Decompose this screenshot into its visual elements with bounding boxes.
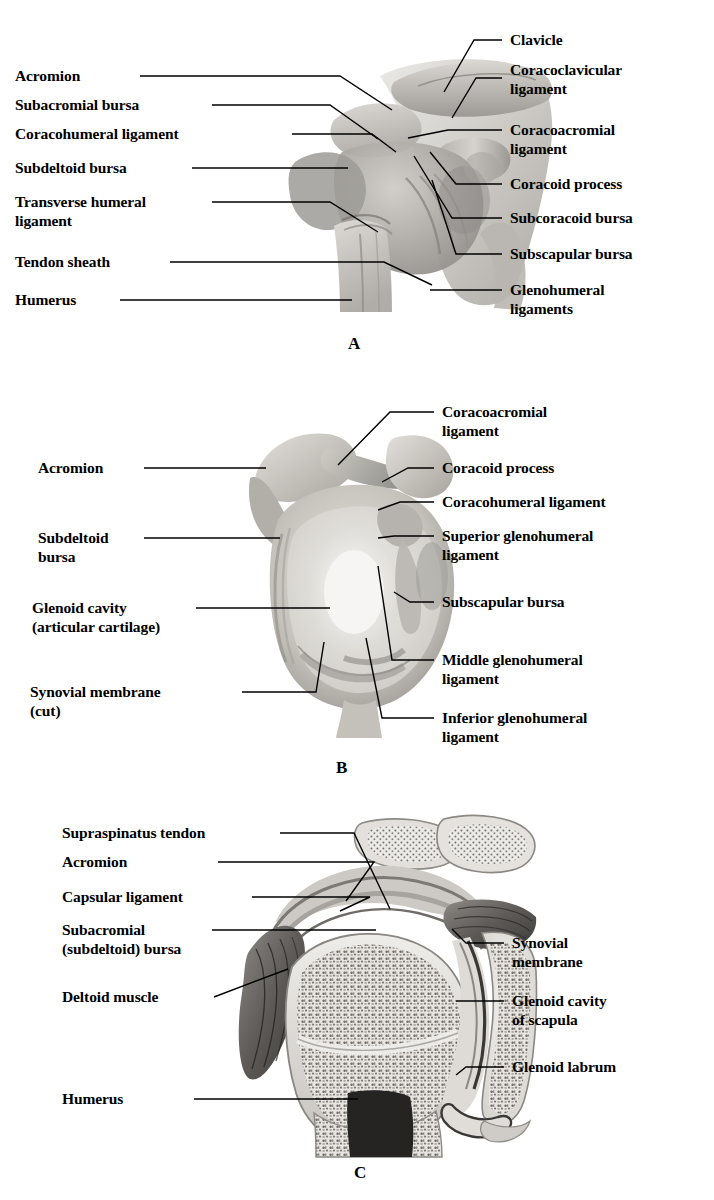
- panel-a-label-subscapular-bursa: Subscapular bursa: [510, 244, 633, 263]
- panel-c-label-glenoid-cavity-of-scapula: Glenoid cavity of scapula: [512, 991, 607, 1029]
- panel-b-label-subdeltoid-bursa: Subdeltoid bursa: [38, 528, 109, 566]
- panel-b-label-acromion: Acromion: [38, 458, 103, 477]
- panel-b-label-synovial-membrane: Synovial membrane (cut): [30, 682, 160, 720]
- panel-a-label-subacromial-bursa: Subacromial bursa: [15, 95, 139, 114]
- panel-b-label-subscapular-bursa: Subscapular bursa: [442, 592, 565, 611]
- panel-c-label-humerus: Humerus: [62, 1089, 123, 1108]
- panel-c-letter: C: [354, 1163, 366, 1183]
- panel-a-label-coracoclavicular-ligament: Coracoclavicular ligament: [510, 60, 622, 98]
- panel-c-label-glenoid-labrum: Glenoid labrum: [512, 1057, 616, 1076]
- panel-b-letter: B: [336, 758, 347, 778]
- panel-a: Acromion Subacromial bursa Coracohumeral…: [0, 0, 714, 370]
- panel-a-label-transverse-humeral-ligament: Transverse humeral ligament: [15, 192, 146, 230]
- panel-a-label-acromion: Acromion: [15, 66, 80, 85]
- panel-c-label-capsular-ligament: Capsular ligament: [62, 887, 183, 906]
- panel-b-label-middle-glenohumeral-ligament: Middle glenohumeral ligament: [442, 650, 583, 688]
- panel-c-label-deltoid-muscle: Deltoid muscle: [62, 987, 158, 1006]
- panel-c-label-supraspinatus-tendon: Supraspinatus tendon: [62, 823, 205, 842]
- panel-a-letter: A: [348, 334, 360, 354]
- panel-b-label-inferior-glenohumeral-ligament: Inferior glenohumeral ligament: [442, 708, 587, 746]
- panel-b-label-coracoid-process: Coracoid process: [442, 458, 554, 477]
- panel-b: Acromion Subdeltoid bursa Glenoid cavity…: [0, 370, 714, 785]
- panel-a-label-coracoid-process: Coracoid process: [510, 174, 622, 193]
- panel-a-label-subdeltoid-bursa: Subdeltoid bursa: [15, 158, 127, 177]
- panel-c-label-acromion: Acromion: [62, 852, 127, 871]
- panel-a-label-subcoracoid-bursa: Subcoracoid bursa: [510, 208, 633, 227]
- panel-a-label-clavicle: Clavicle: [510, 30, 563, 49]
- anatomy-figure: Acromion Subacromial bursa Coracohumeral…: [0, 0, 714, 1200]
- panel-b-label-glenoid-cavity: Glenoid cavity (articular cartilage): [32, 598, 160, 636]
- panel-c-label-subacromial-bursa: Subacromial (subdeltoid) bursa: [62, 920, 181, 958]
- panel-a-label-glenohumeral-ligaments: Glenohumeral ligaments: [510, 280, 604, 318]
- panel-a-label-coracoacromial-ligament: Coracoacromial ligament: [510, 120, 615, 158]
- panel-b-label-superior-glenohumeral-ligament: Superior glenohumeral ligament: [442, 526, 593, 564]
- panel-c-label-synovial-membrane: Synovial membrane: [512, 933, 583, 971]
- panel-c-illustration: [238, 817, 538, 1157]
- panel-c: Supraspinatus tendon Acromion Capsular l…: [0, 785, 714, 1200]
- panel-a-label-humerus: Humerus: [15, 290, 76, 309]
- panel-b-label-coracoacromial-ligament: Coracoacromial ligament: [442, 402, 547, 440]
- panel-a-label-coracohumeral-ligament: Coracohumeral ligament: [15, 124, 179, 143]
- panel-b-label-coracohumeral-ligament: Coracohumeral ligament: [442, 492, 606, 511]
- panel-a-label-tendon-sheath: Tendon sheath: [15, 252, 110, 271]
